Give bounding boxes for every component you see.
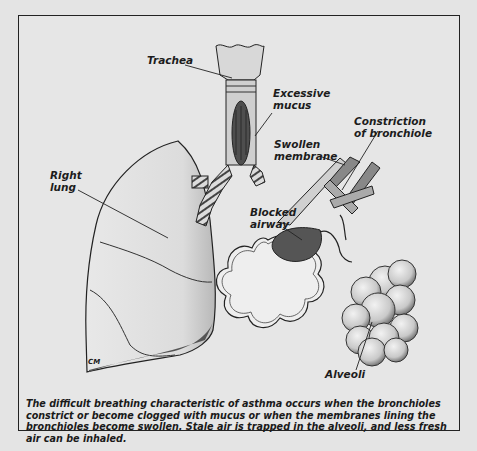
label-right-lung: Right lung	[50, 169, 82, 193]
asthma-lung-illustration	[0, 0, 477, 451]
label-alveoli: Alveoli	[325, 368, 365, 380]
label-trachea: Trachea	[147, 54, 193, 66]
alveoli-cluster	[342, 260, 418, 366]
figure-caption: The difficult breathing characteristic o…	[26, 398, 456, 444]
artist-signature: CM	[88, 356, 100, 368]
label-excessive-mucus: Excessive mucus	[273, 87, 330, 111]
label-blocked-airway: Blocked airway	[250, 206, 296, 230]
label-swollen-membrane: Swollen membrane	[274, 138, 337, 162]
trachea	[192, 45, 265, 226]
alveolar-sac-blocked	[216, 215, 352, 328]
label-constriction-of-bronchiole: Constriction of bronchiole	[354, 115, 432, 139]
